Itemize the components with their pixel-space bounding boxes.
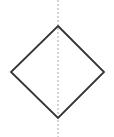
figure-panel: a. [0, 0, 114, 137]
figure-canvas [0, 0, 114, 137]
